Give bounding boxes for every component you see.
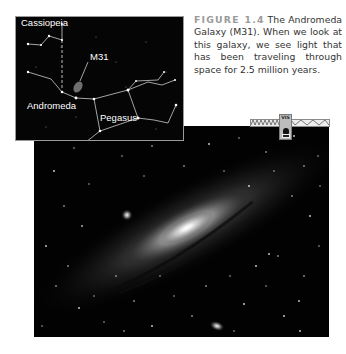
figure-caption: FIGURE 1.4The Andromeda Galaxy (M31). Wh… — [194, 14, 342, 76]
visible-band-marker: VIS — [279, 114, 292, 140]
pegasus-label: Pegasus — [100, 113, 137, 123]
cassiopeia-label: Cassiopeia — [21, 18, 68, 28]
m31-label: M31 — [90, 52, 108, 62]
vis-label: VIS — [280, 115, 291, 120]
figure-number: FIGURE 1.4 — [194, 14, 265, 25]
galaxy-image — [34, 126, 329, 337]
eye-base-icon — [282, 134, 290, 138]
andromeda-label: Andromeda — [27, 101, 76, 111]
andromeda-galaxy-photo — [34, 126, 329, 337]
constellation-map-inset: Cassiopeia M31 Andromeda Pegasus — [15, 16, 184, 141]
